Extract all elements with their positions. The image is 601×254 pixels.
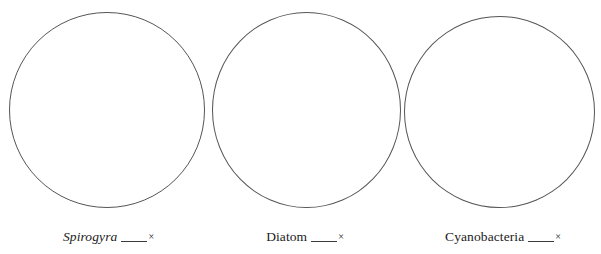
drawing-circle-diatom[interactable] [212,12,401,208]
specimen-drawing-worksheet: Spirogyra× Diatom× Cyanobacteria× [0,0,601,254]
specimen-label-diatom: Diatom× [206,229,402,245]
magnification-symbol-cyanobacteria: × [555,231,561,242]
taxon-name-diatom: Diatom [266,229,307,244]
specimen-panel-cyanobacteria: Cyanobacteria× [399,0,601,254]
specimen-panel-spirogyra: Spirogyra× [0,0,213,254]
specimen-label-cyanobacteria: Cyanobacteria× [399,229,601,245]
taxon-name-cyanobacteria: Cyanobacteria [445,229,524,244]
magnification-blank-cyanobacteria[interactable] [528,241,554,242]
magnification-symbol-spirogyra: × [148,231,154,242]
magnification-blank-spirogyra[interactable] [121,241,147,242]
taxon-name-spirogyra: Spirogyra [63,229,117,244]
specimen-label-spirogyra: Spirogyra× [0,229,213,245]
magnification-symbol-diatom: × [338,231,344,242]
drawing-circle-cyanobacteria[interactable] [404,16,595,208]
specimen-panel-diatom: Diatom× [206,0,402,254]
magnification-blank-diatom[interactable] [311,241,337,242]
drawing-circle-spirogyra[interactable] [9,12,205,208]
